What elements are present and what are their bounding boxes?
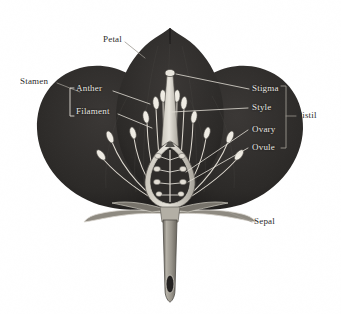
label-style: Style <box>252 102 272 112</box>
label-ovule: Ovule <box>252 142 275 152</box>
label-stamen: Stamen <box>20 76 48 86</box>
stem-cut-cross-section <box>166 275 174 293</box>
label-petal: Petal <box>103 34 122 44</box>
label-anther: Anther <box>76 83 102 93</box>
label-stigma: Stigma <box>252 83 279 93</box>
label-sepal: Sepal <box>254 216 275 226</box>
label-ovary: Ovary <box>252 124 276 134</box>
flower-illustration <box>0 0 341 314</box>
label-pistil: Pistil <box>297 110 317 120</box>
label-filament: Filament <box>76 106 110 116</box>
stigma <box>165 69 175 76</box>
flower-diagram: Petal Stamen Anther Filament Stigma Styl… <box>0 0 341 314</box>
